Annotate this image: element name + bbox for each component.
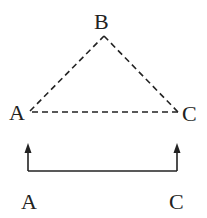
bottom-label-a: A — [21, 189, 37, 214]
diagram: B A C A C — [0, 0, 207, 218]
triangle — [30, 36, 178, 112]
arrowhead-right-icon — [174, 143, 181, 153]
bracket-connector — [28, 148, 177, 171]
bottom-label-c: C — [169, 189, 184, 214]
arrowhead-left-icon — [25, 143, 32, 153]
edge-a-b — [30, 36, 104, 111]
vertex-label-a: A — [9, 100, 25, 125]
vertex-label-c: C — [182, 101, 197, 126]
vertex-label-b: B — [94, 9, 109, 34]
edge-b-c — [104, 36, 178, 112]
